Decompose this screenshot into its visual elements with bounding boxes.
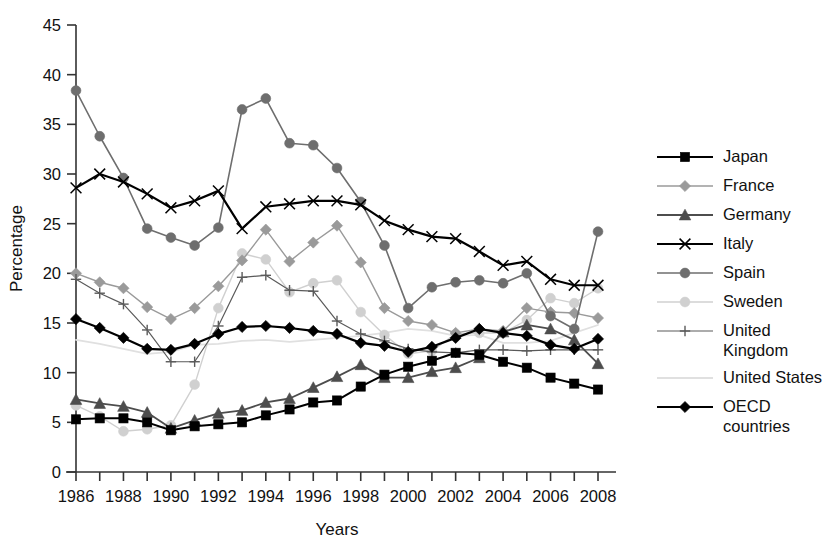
marker-diamond xyxy=(118,332,129,343)
marker-square xyxy=(119,414,128,423)
marker-square xyxy=(214,420,223,429)
marker-plus xyxy=(166,357,176,367)
marker-square xyxy=(380,370,389,379)
marker-diamond xyxy=(521,330,532,341)
legend-item-united-kingdom[interactable]: United Kingdom xyxy=(655,320,833,360)
marker-circle xyxy=(213,223,223,233)
legend-key-icon xyxy=(655,262,715,284)
marker-plus xyxy=(593,345,603,355)
legend-item-spain[interactable]: Spain xyxy=(655,262,833,284)
marker-square xyxy=(404,362,413,371)
marker-diamond xyxy=(426,319,437,330)
marker-diamond xyxy=(679,401,690,412)
y-axis-tick-label: 45 xyxy=(43,16,61,34)
marker-diamond xyxy=(165,344,176,355)
legend-key-icon xyxy=(655,396,715,418)
marker-plus xyxy=(95,288,105,298)
marker-square xyxy=(95,414,104,423)
legend-key-icon xyxy=(655,291,715,313)
marker-diamond xyxy=(355,337,366,348)
marker-diamond xyxy=(403,315,414,326)
marker-plus xyxy=(522,346,532,356)
marker-square xyxy=(166,426,175,435)
legend-label: Italy xyxy=(715,233,753,253)
legend-key-icon xyxy=(655,367,715,389)
legend-item-sweden[interactable]: Sweden xyxy=(655,291,833,313)
marker-square xyxy=(143,418,152,427)
x-axis-tick-label: 2002 xyxy=(437,487,474,505)
chart-container: 0510152025303540451986198819901992199419… xyxy=(0,0,833,550)
legend-label: Japan xyxy=(715,146,768,166)
marker-square xyxy=(237,418,246,427)
legend-item-italy[interactable]: Italy xyxy=(655,233,833,255)
x-axis-tick-label: 2006 xyxy=(532,487,569,505)
series-line xyxy=(76,91,598,329)
marker-diamond xyxy=(260,224,271,235)
marker-diamond xyxy=(189,338,200,349)
marker-square xyxy=(570,379,579,388)
legend-item-germany[interactable]: Germany xyxy=(655,204,833,226)
marker-circle xyxy=(261,255,271,265)
marker-circle xyxy=(332,275,342,285)
x-axis-tick-label: 2004 xyxy=(485,487,522,505)
marker-circle xyxy=(474,275,484,285)
legend-key-icon xyxy=(655,175,715,197)
x-axis-title: Years xyxy=(316,520,359,539)
series-spain xyxy=(71,86,603,334)
y-axis-tick-label: 20 xyxy=(43,264,61,282)
marker-circle xyxy=(680,297,690,307)
marker-circle xyxy=(190,241,200,251)
legend-label: OECD countries xyxy=(715,396,790,436)
marker-x xyxy=(142,188,153,199)
y-axis-tick-label: 30 xyxy=(43,165,61,183)
marker-plus xyxy=(237,272,247,282)
legend-label: Spain xyxy=(715,262,765,282)
marker-x xyxy=(379,215,390,226)
y-axis-tick-label: 40 xyxy=(43,66,61,84)
legend-key-icon xyxy=(655,320,715,342)
y-axis-tick-label: 5 xyxy=(52,413,61,431)
marker-circle xyxy=(569,298,579,308)
marker-square xyxy=(546,373,555,382)
marker-diamond xyxy=(355,257,366,268)
marker-triangle xyxy=(284,393,296,404)
marker-square xyxy=(427,356,436,365)
x-axis-tick-label: 1992 xyxy=(200,487,237,505)
marker-circle xyxy=(285,138,295,148)
marker-diamond xyxy=(308,325,319,336)
y-axis-title: Percentage xyxy=(7,205,26,292)
marker-x xyxy=(237,223,248,234)
series-japan xyxy=(71,348,602,435)
legend-key-icon xyxy=(655,146,715,168)
chart-legend: JapanFranceGermanyItalySpainSwedenUnited… xyxy=(655,146,833,443)
legend-item-oecd-countries[interactable]: OECD countries xyxy=(655,396,833,436)
y-axis-tick-label: 25 xyxy=(43,215,61,233)
legend-label: France xyxy=(715,175,774,195)
marker-plus xyxy=(498,345,508,355)
x-axis-tick-label: 1986 xyxy=(58,487,95,505)
marker-triangle xyxy=(355,359,367,370)
legend-item-france[interactable]: France xyxy=(655,175,833,197)
marker-diamond xyxy=(679,180,690,191)
marker-circle xyxy=(71,86,81,96)
y-axis-tick-label: 15 xyxy=(43,314,61,332)
marker-square xyxy=(190,422,199,431)
marker-circle xyxy=(95,131,105,141)
legend-item-united-states[interactable]: United States xyxy=(655,367,833,389)
marker-diamond xyxy=(213,328,224,339)
marker-square xyxy=(498,357,507,366)
marker-diamond xyxy=(331,220,342,231)
marker-square xyxy=(309,398,318,407)
marker-diamond xyxy=(284,322,295,333)
marker-circle xyxy=(569,324,579,334)
marker-circle xyxy=(213,303,223,313)
y-axis-tick-label: 0 xyxy=(52,463,61,481)
marker-circle xyxy=(237,105,247,115)
marker-square xyxy=(451,348,460,357)
marker-diamond xyxy=(592,312,603,323)
marker-diamond xyxy=(379,303,390,314)
legend-item-japan[interactable]: Japan xyxy=(655,146,833,168)
marker-square xyxy=(475,350,484,359)
marker-diamond xyxy=(592,333,603,344)
marker-square xyxy=(680,152,689,161)
